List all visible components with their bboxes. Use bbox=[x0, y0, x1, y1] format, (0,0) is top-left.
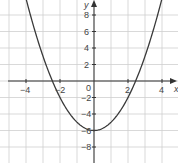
y-axis-arrow-icon bbox=[91, 0, 97, 7]
parabola-chart: x y 0 −4 −2 2 4 8 6 4 2 −2 −4 −6 −8 bbox=[0, 0, 178, 163]
y-axis-label: y bbox=[83, 0, 89, 10]
x-axis-label: x bbox=[173, 84, 178, 94]
origin-label: 0 bbox=[86, 83, 91, 93]
y-tick-label: 4 bbox=[84, 43, 89, 53]
y-tick-label: 2 bbox=[84, 60, 89, 70]
y-tick-label: −8 bbox=[81, 142, 91, 152]
x-tick-label: 2 bbox=[125, 85, 130, 95]
x-tick-label: 4 bbox=[159, 85, 164, 95]
y-tick-label: 6 bbox=[84, 27, 89, 37]
x-tick-label: −2 bbox=[55, 85, 65, 95]
y-tick-label: −2 bbox=[81, 93, 91, 103]
y-tick-label: 8 bbox=[84, 10, 89, 20]
x-tick-label: −4 bbox=[20, 85, 30, 95]
y-tick-label: −4 bbox=[81, 109, 91, 119]
y-tick-label: −6 bbox=[81, 126, 91, 136]
